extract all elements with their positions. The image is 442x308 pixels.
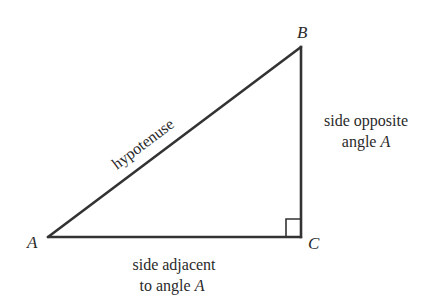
side-opposite-line2-var: A (379, 133, 390, 150)
side-opposite-line1: side opposite (324, 112, 408, 130)
side-adjacent-line1: side adjacent (132, 256, 216, 274)
right-triangle-diagram: B A C hypotenuse side opposite angle A s… (0, 0, 442, 308)
side-opposite-label-line2: angle A (342, 133, 391, 151)
side-adjacent-line2-var: A (194, 277, 205, 294)
side-adjacent-label: side adjacent (132, 256, 216, 274)
vertex-label-a: A (26, 233, 38, 252)
side-adjacent-line2-prefix: to angle (140, 277, 195, 295)
side-adjacent-label-line2: to angle A (140, 277, 205, 295)
vertex-label-b: B (297, 23, 308, 42)
side-opposite-label: side opposite (324, 112, 408, 130)
side-opposite-line2-prefix: angle (342, 133, 381, 151)
hypotenuse-line (48, 47, 301, 237)
vertex-label-c: C (308, 234, 320, 253)
right-angle-marker (286, 219, 301, 237)
